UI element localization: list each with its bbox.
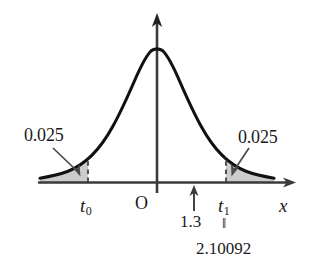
x-axis-label: x xyxy=(279,196,287,215)
equals-stack-symbol: ‖ xyxy=(222,216,225,231)
left-area-leader-line xyxy=(53,148,76,170)
t1-symbol: t xyxy=(218,195,223,216)
right-area-leader-line xyxy=(235,148,249,169)
origin-label: O xyxy=(135,194,148,212)
pointer-value-label: 1.3 xyxy=(180,213,201,230)
statistics-figure: 0.025 0.025 t0 t1 O x 1.3 ‖ 2.10092 xyxy=(0,0,311,269)
right-tail-area-label: 0.025 xyxy=(238,128,278,146)
t0-symbol: t xyxy=(80,195,85,216)
t0-boundary-label: t0 xyxy=(80,196,92,217)
t0-subscript: 0 xyxy=(86,204,92,218)
critical-value-label: 2.10092 xyxy=(196,240,251,257)
t1-boundary-label: t1 xyxy=(218,196,230,217)
left-tail-area-label: 0.025 xyxy=(24,126,64,144)
